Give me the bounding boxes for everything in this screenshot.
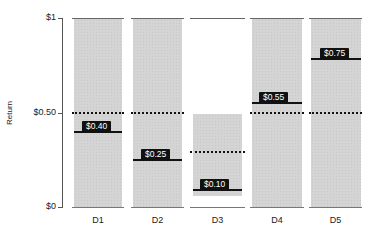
d5-baseline [309,207,362,208]
x-label-d3: D3 [190,215,245,225]
d3-reference-line [190,151,245,153]
y-tick-top [58,18,63,19]
x-label-d2: D2 [131,215,184,225]
d2-reference-line [131,112,184,114]
d3-top-line [190,18,245,19]
d3-baseline [190,207,245,208]
y-tick-label-bottom: $0 [46,201,56,211]
x-label-d5: D5 [309,215,362,225]
d2-value-badge: $0.25 [141,149,170,160]
d5-value-badge: $0.75 [320,48,349,59]
x-label-d4: D4 [250,215,304,225]
y-axis-label: Return [5,101,14,125]
y-tick-mid [58,113,63,114]
d5-reference-line [309,112,362,114]
d4-baseline [250,207,304,208]
d4-value-badge: $0.55 [259,92,288,103]
d3-value-badge: $0.10 [200,179,229,190]
d2-baseline [131,207,184,208]
y-tick-label-top: $1 [46,12,56,22]
y-tick-label-mid: $0.50 [33,107,56,117]
x-label-d1: D1 [72,215,124,225]
d1-reference-line [72,112,124,114]
d4-reference-line [250,112,304,114]
d1-value-badge: $0.40 [82,121,111,132]
d1-baseline [72,207,124,208]
y-tick-bottom [58,207,63,208]
